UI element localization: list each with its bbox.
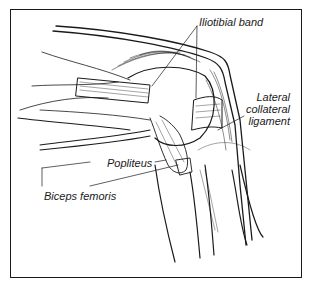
- label-biceps-femoris: Biceps femoris: [44, 190, 116, 202]
- iliotibial-band-insertion: [192, 97, 222, 130]
- thigh-muscles: [20, 52, 150, 120]
- quad-fibers: [112, 51, 200, 70]
- tibia-texture: [198, 143, 250, 233]
- label-lcl-line-3: ligament: [246, 115, 290, 127]
- label-popliteus: Popliteus: [107, 157, 152, 169]
- label-iliotibial-band: Iliotibial band: [199, 16, 263, 28]
- knee-anatomy-drawing: [0, 0, 311, 287]
- biceps-femoris: [18, 118, 150, 150]
- label-lcl-line-1: Lateral: [246, 91, 290, 103]
- iliotibial-band-cut: [76, 78, 150, 103]
- label-lateral-collateral-ligament: Lateral collateral ligament: [246, 91, 290, 127]
- femoral-condyle: [128, 67, 214, 145]
- label-lcl-line-2: collateral: [246, 103, 290, 115]
- tibia-fibula: [155, 165, 263, 262]
- skin-contour: [53, 26, 252, 245]
